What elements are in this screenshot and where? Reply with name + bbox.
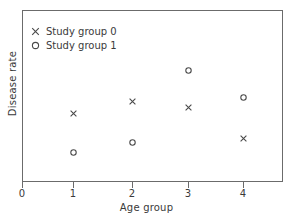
y-axis-title: Disease rate — [7, 44, 18, 124]
circle-marker-icon — [30, 40, 41, 51]
legend-label-study-group-0: Study group 0 — [46, 26, 117, 37]
x-tick-label-2: 2 — [122, 188, 142, 200]
x-axis-title: Age group — [0, 202, 293, 213]
scatter-chart-figure: Study group 0 Study group 1 01234 Age gr… — [0, 0, 293, 221]
chart-legend: Study group 0 Study group 1 — [30, 25, 117, 53]
x-tick-label-3: 3 — [178, 188, 198, 200]
x-tick-label-4: 4 — [233, 188, 253, 200]
legend-item-study-group-1: Study group 1 — [30, 39, 117, 51]
legend-item-study-group-0: Study group 0 — [30, 25, 117, 37]
legend-label-study-group-1: Study group 1 — [46, 40, 117, 51]
cross-marker-icon — [30, 26, 41, 37]
x-tick-label-0: 0 — [12, 188, 32, 200]
x-tick-label-1: 1 — [63, 188, 83, 200]
